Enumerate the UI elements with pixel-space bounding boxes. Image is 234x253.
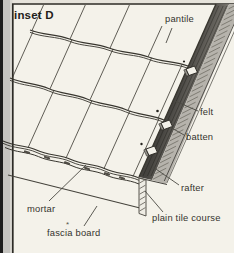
batten-label: batten bbox=[186, 131, 213, 142]
mortar-dab bbox=[120, 177, 124, 178]
page-edge-shadow bbox=[0, 0, 3, 253]
fascia-board-label: fascia board bbox=[47, 227, 100, 238]
mortar-dab bbox=[65, 162, 69, 163]
nail-dot bbox=[140, 143, 142, 145]
pantile-label: pantile bbox=[165, 13, 194, 24]
inset-title: inset D bbox=[14, 9, 54, 21]
rafter-label: rafter bbox=[181, 182, 204, 193]
mortar-dab bbox=[85, 168, 89, 169]
felt-label: felt bbox=[200, 106, 214, 117]
mortar-dab bbox=[105, 173, 109, 174]
mortar-label: mortar bbox=[27, 203, 55, 214]
nail-dot bbox=[156, 110, 159, 113]
roof-verge-diagram: inset D pantile felt batten rafter plain… bbox=[0, 0, 234, 253]
mortar-dab bbox=[45, 157, 49, 158]
mortar-dab bbox=[25, 151, 29, 152]
footnote-marker: * bbox=[66, 220, 69, 229]
nail-dot bbox=[183, 60, 185, 62]
plain-tile-course-label: plain tile course bbox=[152, 212, 221, 223]
page-edge-strip bbox=[3, 0, 10, 253]
inset-diagram-panel: inset D pantile felt batten rafter plain… bbox=[0, 0, 234, 253]
